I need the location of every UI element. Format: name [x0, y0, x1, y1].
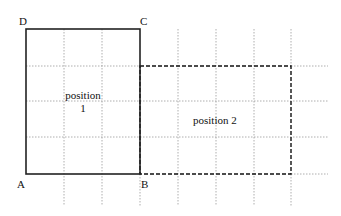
position-2-label: position 2 [193, 114, 237, 126]
vertex-label-b: B [141, 178, 148, 190]
vertex-label-a: A [17, 178, 25, 190]
vertex-label-d: D [19, 15, 27, 27]
grid-lines [26, 29, 328, 206]
position-1-label-line2: 1 [80, 102, 86, 114]
vertex-label-c: C [140, 15, 147, 27]
diagram-canvas: D C A B position 1 position 2 [0, 0, 341, 216]
position-1-label-line1: position [65, 89, 101, 101]
